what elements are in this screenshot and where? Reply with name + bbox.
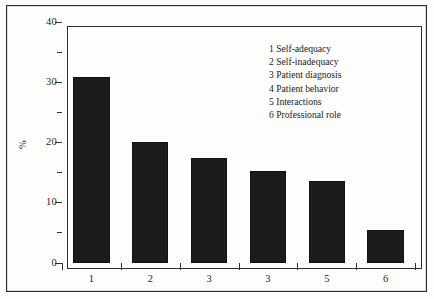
- legend-item-label: Patient behavior: [276, 83, 339, 94]
- y-axis-title: %: [17, 140, 28, 149]
- x-tick: [62, 263, 63, 270]
- y-tick-minor: [57, 52, 62, 53]
- y-tick-label: 10: [31, 197, 57, 208]
- bar: [367, 230, 403, 263]
- bar: [191, 158, 227, 263]
- bar: [132, 142, 168, 263]
- y-tick-label: 0: [31, 258, 57, 269]
- x-tick: [180, 263, 181, 270]
- legend-item-label: Self-inadequacy: [276, 56, 338, 67]
- y-tick-label: 40: [31, 17, 57, 28]
- legend-item: 6 Professional role: [269, 108, 342, 121]
- x-tick-label: 5: [312, 273, 342, 284]
- x-tick: [297, 263, 298, 270]
- x-tick: [356, 263, 357, 270]
- legend-item: 3 Patient diagnosis: [269, 68, 342, 81]
- plot-top-rule: [68, 26, 421, 27]
- x-tick: [239, 263, 240, 270]
- bar: [309, 181, 345, 263]
- x-tick-label: 3: [253, 273, 283, 284]
- legend-item-label: Patient diagnosis: [276, 69, 341, 80]
- y-axis-line: [67, 26, 68, 269]
- x-tick-label: 2: [135, 273, 165, 284]
- bar: [73, 77, 109, 263]
- legend-item: 2 Self-inadequacy: [269, 55, 342, 68]
- chart-page: 010203040 % 123356 1 Self-adequacy2 Self…: [0, 0, 434, 299]
- plot-right-rule: [421, 26, 422, 269]
- x-tick: [415, 263, 416, 270]
- legend: 1 Self-adequacy2 Self-inadequacy3 Patien…: [269, 42, 342, 121]
- legend-item: 4 Patient behavior: [269, 82, 342, 95]
- y-tick-label: 20: [31, 137, 57, 148]
- legend-item: 5 Interactions: [269, 95, 342, 108]
- x-tick-label: 6: [371, 273, 401, 284]
- figure-border: 010203040 % 123356 1 Self-adequacy2 Self…: [6, 5, 427, 292]
- y-tick-minor: [57, 172, 62, 173]
- legend-item-label: Interactions: [276, 96, 321, 107]
- bar: [250, 171, 286, 263]
- legend-item-label: Self-adequacy: [276, 43, 331, 54]
- y-axis-tick-labels: 010203040: [27, 6, 57, 299]
- y-tick-minor: [57, 112, 62, 113]
- x-tick-label: 3: [194, 273, 224, 284]
- y-tick-label: 30: [31, 77, 57, 88]
- y-tick-minor: [57, 232, 62, 233]
- x-tick-label: 1: [76, 273, 106, 284]
- legend-item: 1 Self-adequacy: [269, 42, 342, 55]
- legend-item-label: Professional role: [276, 109, 341, 120]
- x-tick: [121, 263, 122, 270]
